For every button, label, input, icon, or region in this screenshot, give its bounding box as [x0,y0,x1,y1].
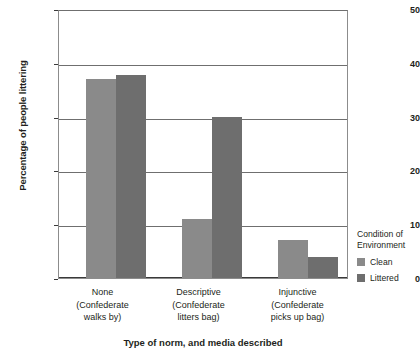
y-tick-label-50: 50 [376,5,420,15]
y-axis-title: Percentage of people littering [17,26,28,226]
x-label-none: None (Confederate walks by) [62,286,143,324]
y-tick-label-30: 30 [376,113,420,123]
bar-none-clean [86,79,116,278]
legend-swatch-clean-icon [357,258,365,266]
x-label-injunctive-sub1: (Confederate [254,299,341,312]
x-label-descriptive: Descriptive (Confederate litters bag) [158,286,239,324]
legend-label-clean: Clean [370,257,392,267]
plot-area [58,10,348,279]
x-label-none-sub1: (Confederate [62,299,143,312]
legend-entry-clean: Clean [357,257,420,267]
x-label-descriptive-sub2: litters bag) [158,311,239,324]
bar-injunctive-littered [308,257,338,279]
x-label-none-name: None [62,286,143,299]
legend-swatch-littered-icon [357,274,365,282]
legend-title-line2: Environment [357,240,420,251]
y-tick-label-40: 40 [376,59,420,69]
legend: Condition of Environment Clean Littered [357,229,420,283]
x-label-injunctive: Injunctive (Confederate picks up bag) [254,286,341,324]
gridline-40 [59,65,347,66]
y-tick-label-20: 20 [376,166,420,176]
x-label-injunctive-name: Injunctive [254,286,341,299]
x-label-descriptive-name: Descriptive [158,286,239,299]
legend-entry-littered: Littered [357,273,420,283]
x-label-none-sub2: walks by) [62,311,143,324]
legend-title-line1: Condition of [357,229,420,240]
bar-descriptive-littered [212,117,242,278]
legend-label-littered: Littered [370,273,399,283]
y-tick-mark-0 [54,279,58,280]
bar-descriptive-clean [182,219,212,278]
x-axis-title: Type of norm, and media described [58,337,348,348]
bar-injunctive-clean [278,240,308,278]
x-label-injunctive-sub2: picks up bag) [254,311,341,324]
bar-none-littered [116,75,146,278]
x-label-descriptive-sub1: (Confederate [158,299,239,312]
